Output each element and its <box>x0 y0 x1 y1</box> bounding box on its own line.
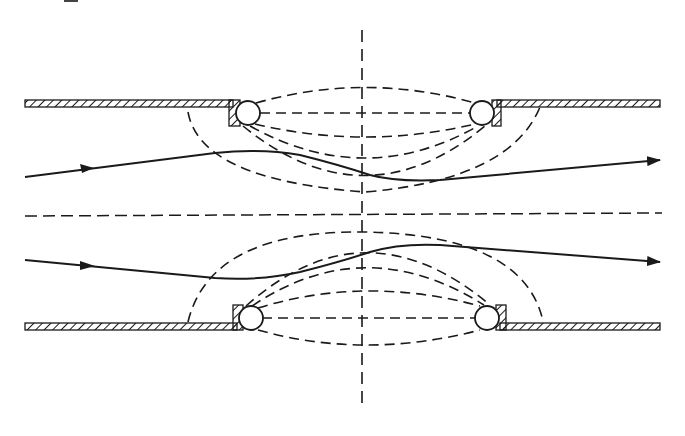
ring-bottom-right <box>475 306 499 330</box>
ring-top-right <box>470 101 494 125</box>
lower-streamline-arrow-icon <box>80 261 95 270</box>
diagram-svg <box>0 0 685 436</box>
upper-streamline <box>25 151 660 181</box>
diagram-canvas <box>0 0 685 436</box>
lower-streamline <box>25 245 660 279</box>
ring-bottom-left <box>239 306 263 330</box>
horizontal-axis-dashed <box>25 213 662 216</box>
rings <box>236 101 499 330</box>
corner-label-fragment <box>64 0 78 2</box>
upper-streamline-arrow-icon <box>80 164 94 173</box>
ring-top-left <box>236 101 260 125</box>
